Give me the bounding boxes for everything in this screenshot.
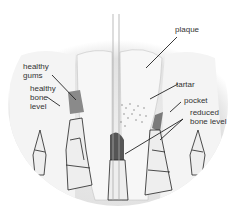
label-healthy-gums: healthy gums (23, 62, 49, 80)
label-reduced-bone-level: reduced bone level (190, 108, 226, 126)
label-healthy-bone-level: healthy bone level (30, 84, 56, 111)
label-tartar: tartar (176, 80, 195, 89)
periodontal-diagram: healthy gums healthy bone level plaque t… (0, 0, 236, 208)
label-pocket: pocket (184, 96, 208, 105)
label-plaque: plaque (175, 25, 199, 34)
